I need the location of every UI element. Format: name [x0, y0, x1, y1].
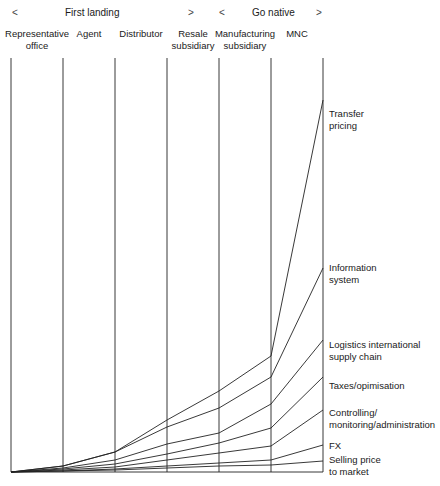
cost-label-transfer-pricing: Transfer pricing [329, 108, 364, 132]
cost-label-taxes: Taxes/opimisation [329, 380, 405, 392]
cost-label-selling-price: Selling price to market [329, 454, 381, 478]
market-entry-cost-diagram: < First landing > < Go native > Represen… [0, 0, 440, 486]
cost-label-information-system: Information system [329, 262, 377, 286]
cost-label-logistics: Logistics international supply chain [329, 339, 420, 363]
cost-label-fx: FX [329, 440, 341, 452]
cost-label-controlling: Controlling/ monitoring/administration [329, 407, 435, 431]
column-dividers [11, 58, 323, 472]
